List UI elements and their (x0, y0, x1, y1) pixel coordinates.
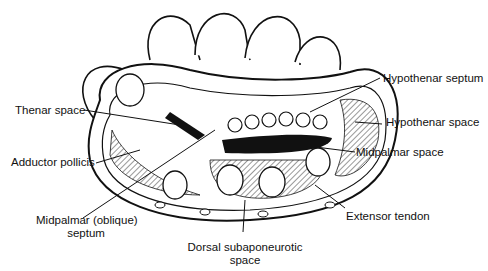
label-dorsal-subaponeurotic-space: Dorsal subaponeurotic space (180, 241, 310, 267)
label-extensor-tendon: Extensor tendon (346, 210, 430, 223)
label-adductor-pollicis: Adductor pollicis (11, 156, 95, 169)
label-hypothenar-septum: Hypothenar septum (383, 72, 483, 85)
label-thenar-space: Thenar space (15, 104, 85, 117)
label-hypothenar-space: Hypothenar space (386, 116, 479, 129)
label-midpalmar-space: Midpalmar space (356, 146, 444, 159)
label-midpalmar-oblique-septum: Midpalmar (oblique) septum (36, 214, 136, 240)
hand-cross-section-diagram: Thenar space Adductor pollicis Midpalmar… (0, 0, 488, 271)
